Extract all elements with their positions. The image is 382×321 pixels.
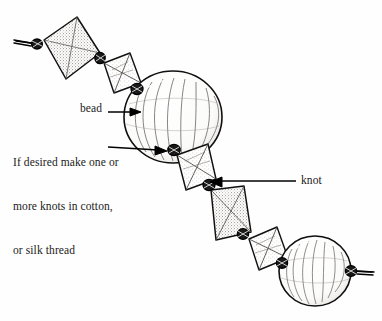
knot-thread-end-right	[345, 266, 356, 277]
knot-thread-end-left	[32, 39, 43, 49]
diamond-bead-1	[44, 17, 100, 79]
knot-3	[168, 144, 180, 155]
necklace-rethreading-illustration: bead knot If desired make one or more kn…	[0, 0, 382, 321]
knot-6	[276, 258, 287, 269]
knot-leader-arrow	[210, 177, 296, 187]
round-bead-2	[279, 236, 351, 306]
note-line-2: more knots in cotton,	[13, 199, 119, 214]
knot-5	[237, 229, 248, 240]
label-knot: knot	[301, 174, 322, 188]
label-bead: bead	[80, 102, 102, 116]
note-line-1: If desired make one or	[13, 155, 119, 170]
note-text-block: If desired make one or more knots in cot…	[13, 126, 119, 287]
knot-1	[95, 52, 105, 63]
note-line-3: or silk thread	[13, 243, 119, 258]
knot-2	[131, 83, 143, 94]
